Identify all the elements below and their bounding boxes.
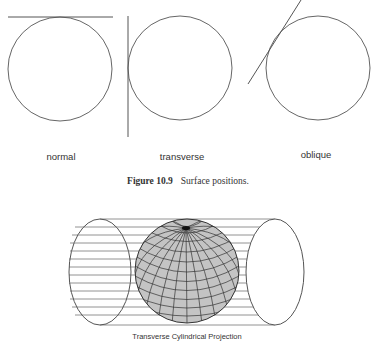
panel-normal: normal xyxy=(8,17,113,162)
panel-transverse: transverse xyxy=(128,16,232,162)
tangent-plane-oblique xyxy=(248,0,301,84)
caption-number: Figure 10.9 xyxy=(127,176,173,186)
panel-oblique: oblique xyxy=(248,0,370,160)
label-oblique: oblique xyxy=(301,149,332,160)
figure-caption: Figure 10.9Surface positions. xyxy=(127,176,249,186)
globe-circle-transverse xyxy=(128,16,232,120)
label-normal: normal xyxy=(46,151,75,162)
figure-canvas: normal transverse oblique Figure 10.9Sur… xyxy=(0,0,376,355)
globe xyxy=(134,215,240,324)
projection-title: Transverse Cylindrical Projection xyxy=(132,332,241,341)
globe-circle-normal xyxy=(8,17,112,121)
label-transverse: transverse xyxy=(160,151,204,162)
cylinder-right-end xyxy=(246,219,304,325)
caption-text: Surface positions. xyxy=(181,176,249,186)
north-pole-marker xyxy=(182,226,190,230)
